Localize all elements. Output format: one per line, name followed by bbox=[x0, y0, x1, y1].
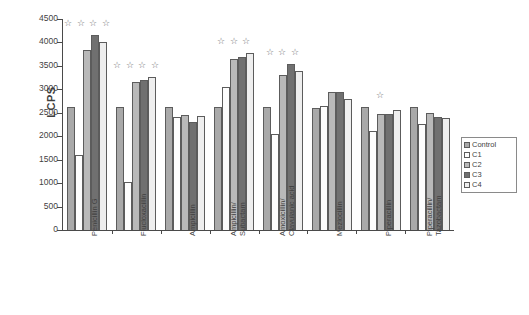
x-tick-label: Mezlocillin bbox=[336, 201, 345, 236]
x-tick-label-line: Amoxicillin/ bbox=[278, 198, 287, 236]
bar-group bbox=[161, 19, 210, 230]
bar bbox=[410, 107, 418, 230]
bar bbox=[124, 182, 132, 230]
y-tick-label: 3000 bbox=[39, 84, 58, 92]
x-tick-label-line: Ampicillin bbox=[188, 204, 197, 236]
legend-label: C2 bbox=[472, 160, 482, 170]
bar-group: ☆ bbox=[356, 19, 405, 230]
x-axis-separator bbox=[405, 230, 406, 234]
legend-swatch-icon bbox=[464, 142, 470, 148]
x-axis-separator bbox=[356, 230, 357, 234]
bar-group-bars bbox=[356, 19, 405, 230]
bar bbox=[361, 107, 369, 230]
significance-stars: ☆ ☆ ☆ ☆ bbox=[112, 61, 161, 70]
bar bbox=[393, 110, 401, 230]
bar bbox=[369, 131, 377, 230]
bar bbox=[312, 108, 320, 230]
x-tick-label: Amoxicillin/Clavulanic acid bbox=[279, 186, 296, 236]
bar bbox=[197, 116, 205, 230]
y-tick-label: 2500 bbox=[39, 108, 58, 116]
bar-group: ☆ ☆ ☆ ☆ bbox=[112, 19, 161, 230]
x-tick-label-line: Clavulanic acid bbox=[287, 186, 296, 236]
bar bbox=[165, 107, 173, 230]
x-tick-label-line: Tazobactam bbox=[434, 196, 443, 236]
x-tick-label-line: Ampicillin/ bbox=[229, 202, 238, 236]
bar-group-bars bbox=[210, 19, 259, 230]
chart-legend: ControlC1C2C3C4 bbox=[461, 137, 517, 193]
legend-swatch-icon bbox=[464, 182, 470, 188]
bar bbox=[320, 106, 328, 230]
x-tick-label-line: Flucloxacillin bbox=[139, 193, 148, 236]
x-axis-separator bbox=[112, 230, 113, 234]
bar bbox=[295, 71, 303, 230]
legend-label: C3 bbox=[472, 170, 482, 180]
x-axis-separator bbox=[210, 230, 211, 234]
y-tick-mark bbox=[57, 160, 62, 161]
legend-swatch-icon bbox=[464, 172, 470, 178]
x-tick-label-line: Piperacillin/ bbox=[425, 198, 434, 236]
legend-swatch-icon bbox=[464, 152, 470, 158]
significance-stars: ☆ ☆ ☆ ☆ bbox=[63, 19, 112, 28]
bar-group-bars bbox=[307, 19, 356, 230]
y-tick-label: 2000 bbox=[39, 131, 58, 139]
legend-label: C1 bbox=[472, 150, 482, 160]
legend-item: Control bbox=[464, 140, 514, 150]
y-tick-mark bbox=[57, 66, 62, 67]
significance-stars: ☆ ☆ ☆ bbox=[259, 48, 308, 57]
y-tick-mark bbox=[57, 207, 62, 208]
x-tick-label-line: Piperacillin bbox=[384, 200, 393, 236]
y-tick-label: 3500 bbox=[39, 61, 58, 69]
x-axis-separator bbox=[161, 230, 162, 234]
bar bbox=[99, 42, 107, 230]
bar-group: ☆ ☆ ☆ ☆ bbox=[63, 19, 112, 230]
significance-stars: ☆ bbox=[356, 91, 405, 100]
x-tick-label: Ampicillin/Subactam bbox=[230, 202, 247, 236]
bar-chart: LCPS 05001000150020002500300035004000450… bbox=[0, 0, 529, 315]
bar-group-bars bbox=[112, 19, 161, 230]
legend-item: C4 bbox=[464, 180, 514, 190]
y-axis-tick-labels: 050010001500200025003000350040004500 bbox=[24, 18, 58, 230]
bar bbox=[263, 107, 271, 230]
x-tick-label-line: Mezlocillin bbox=[335, 201, 344, 236]
bar-group bbox=[307, 19, 356, 230]
bar-group-bars bbox=[63, 19, 112, 230]
legend-swatch-icon bbox=[464, 162, 470, 168]
y-tick-mark bbox=[57, 113, 62, 114]
x-tick-label: Ampicillin bbox=[189, 204, 198, 236]
bar bbox=[75, 155, 83, 230]
legend-item: C1 bbox=[464, 150, 514, 160]
y-tick-mark bbox=[57, 89, 62, 90]
legend-label: C4 bbox=[472, 180, 482, 190]
significance-stars: ☆ ☆ ☆ bbox=[210, 37, 259, 46]
y-tick-label: 1000 bbox=[39, 178, 58, 186]
legend-item: C3 bbox=[464, 170, 514, 180]
legend-label: Control bbox=[472, 140, 496, 150]
y-tick-label: 4500 bbox=[39, 14, 58, 22]
y-tick-mark bbox=[57, 183, 62, 184]
legend-item: C2 bbox=[464, 160, 514, 170]
x-tick-label: Piperacillin/Tazobactam bbox=[426, 196, 443, 236]
y-tick-label: 0 bbox=[53, 225, 58, 233]
y-tick-label: 500 bbox=[44, 202, 58, 210]
y-tick-mark bbox=[57, 19, 62, 20]
bar bbox=[344, 99, 352, 230]
y-tick-mark bbox=[57, 42, 62, 43]
x-tick-label: Piperacillin bbox=[385, 200, 394, 236]
x-tick-label-line: Penicillin G bbox=[90, 198, 99, 236]
bar-group: ☆ ☆ ☆ bbox=[210, 19, 259, 230]
x-axis-separator bbox=[259, 230, 260, 234]
y-tick-mark bbox=[57, 136, 62, 137]
y-tick-label: 1500 bbox=[39, 155, 58, 163]
x-tick-label: Flucloxacillin bbox=[140, 193, 149, 236]
bar-group-bars bbox=[161, 19, 210, 230]
bar bbox=[214, 107, 222, 230]
bar bbox=[116, 107, 124, 230]
bar bbox=[67, 107, 75, 230]
bar bbox=[246, 53, 254, 230]
x-axis-separator bbox=[307, 230, 308, 234]
bar bbox=[148, 77, 156, 230]
bar bbox=[173, 117, 181, 230]
x-tick-label-line: Subactam bbox=[239, 202, 248, 236]
plot-area: ☆ ☆ ☆ ☆☆ ☆ ☆ ☆☆ ☆ ☆☆ ☆ ☆☆ bbox=[63, 19, 454, 230]
y-tick-mark bbox=[57, 230, 62, 231]
